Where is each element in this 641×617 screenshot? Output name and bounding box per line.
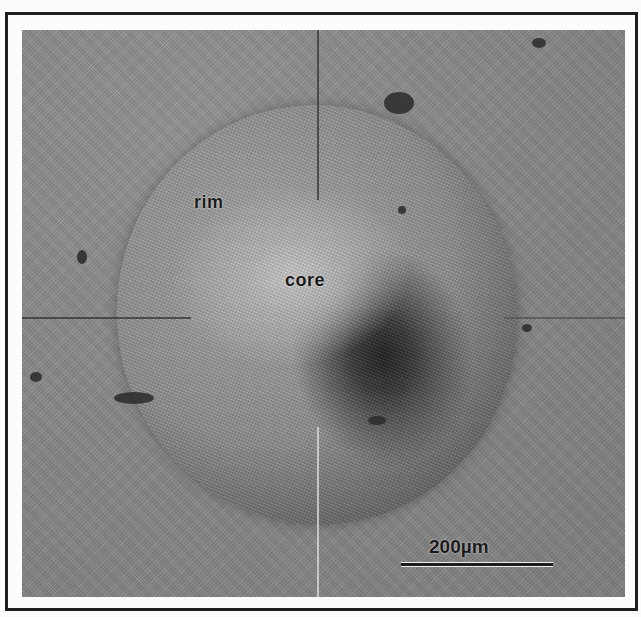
vertical-scratch <box>317 30 319 597</box>
horizontal-scratch <box>22 317 625 319</box>
surface-pit <box>398 206 406 214</box>
scale-bar-label: 200µm <box>429 536 489 558</box>
surface-pit <box>114 392 154 404</box>
micrograph-image: rim core 200µm <box>22 30 625 597</box>
scale-bar-line <box>401 562 553 567</box>
surface-pit <box>522 324 532 332</box>
surface-pit <box>30 372 42 382</box>
surface-pit <box>368 416 386 425</box>
surface-pit <box>77 250 87 264</box>
surface-pit <box>384 92 414 114</box>
rim-label: rim <box>194 192 224 213</box>
core-label: core <box>285 270 325 291</box>
surface-pit <box>532 38 546 48</box>
